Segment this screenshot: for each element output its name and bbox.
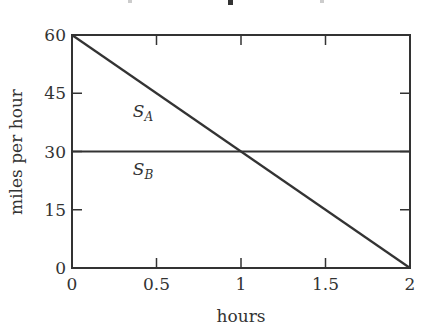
y-tick-label: 0 — [55, 258, 66, 278]
y-tick-label: 60 — [44, 25, 66, 45]
x-tick-label: 2 — [405, 274, 416, 294]
y-tick-label: 45 — [44, 83, 66, 103]
x-axis-title: hours — [217, 306, 266, 326]
series-label-s-a: SA — [133, 101, 154, 124]
x-tick-label: 1.5 — [312, 274, 339, 294]
y-tick-label: 30 — [44, 142, 66, 162]
x-tick-label: 0 — [67, 274, 78, 294]
y-tick-label: 15 — [44, 200, 66, 220]
chart: 00.511.52015304560SASB hours miles per h… — [0, 0, 426, 332]
y-axis-title: miles per hour — [6, 88, 26, 215]
plot-area: 00.511.52015304560SASB — [44, 25, 415, 294]
series-label-s-b: SB — [133, 159, 154, 182]
x-tick-label: 1 — [236, 274, 247, 294]
x-tick-label: 0.5 — [143, 274, 170, 294]
title-fragment — [128, 0, 324, 5]
